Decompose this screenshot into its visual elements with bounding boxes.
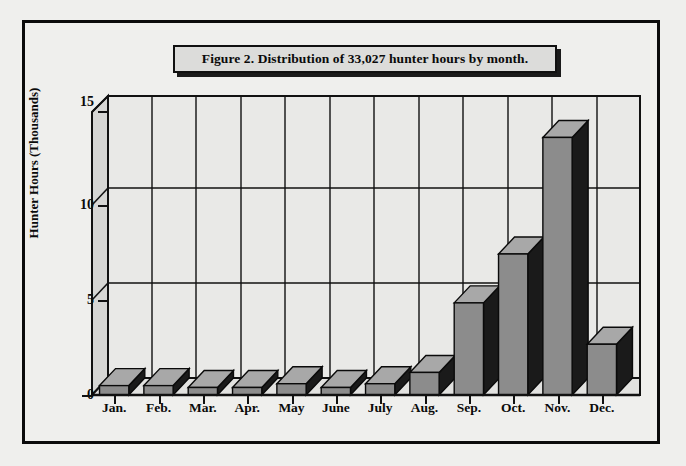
bar-oct [499,237,544,395]
bar-front [587,344,616,395]
chart-left-wall [92,96,108,395]
bar-side [572,120,588,395]
bar-front [454,303,483,395]
y-axis-title: Hunter Hours (Thousands) [26,33,42,293]
ytick-label-5: 5 [60,292,94,308]
bar-front [499,254,528,395]
bar-front [100,386,129,395]
figure-root: 15 10 5 0 Hunter Hours (Thousands) Jan.F… [0,0,686,466]
bar-nov [543,120,588,395]
bar-sep [454,286,499,395]
bar-front [366,384,395,395]
ytick-label-10: 10 [60,197,94,213]
xtick-label-dec: Dec. [572,400,632,416]
page-title: Figure 2. Distribution of 33,027 hunter … [202,51,528,67]
figure-title-banner: Figure 2. Distribution of 33,027 hunter … [173,45,557,73]
bar-front [410,372,439,395]
ytick-mark-15 [98,111,109,113]
ytick-mark-0 [82,395,93,397]
ytick-label-15: 15 [60,94,94,110]
bar-front [277,384,306,395]
ytick-mark-10 [98,205,109,207]
ytick-mark-5 [98,300,109,302]
bar-side [483,286,499,395]
bar-front [543,137,572,395]
bar-dec [587,327,632,395]
bar-side [528,237,544,395]
bar-front [144,386,173,395]
